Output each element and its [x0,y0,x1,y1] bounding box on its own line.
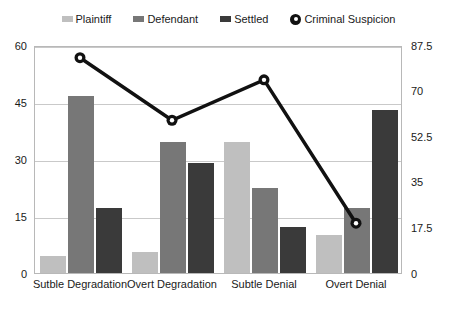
bar-plaintiff[interactable] [316,235,342,273]
chart-legend: Plaintiff Defendant Settled Criminal Sus… [0,8,457,30]
y-tick-label-left: 30 [15,155,27,166]
legend-label-defendant: Defendant [147,14,198,25]
y-tick-label-right: 87.5 [411,41,432,52]
x-category-label: Overt Denial [325,278,386,291]
legend-marker-circle-icon [290,14,301,25]
y-axis-right-labels: 017.53552.57087.5 [406,46,446,274]
y-tick-label-left: 0 [21,269,27,280]
legend-swatch-settled [220,16,231,22]
bar-defendant[interactable] [160,142,186,273]
y-tick-label-right: 70 [411,86,423,97]
y-tick-label-left: 15 [15,212,27,223]
y-tick-label-left: 45 [15,98,27,109]
y-tick-label-right: 35 [411,177,423,188]
chart-container: Plaintiff Defendant Settled Criminal Sus… [0,0,457,309]
legend-label-settled: Settled [234,14,268,25]
bar-defendant[interactable] [344,208,370,273]
bar-defendant[interactable] [252,188,278,274]
bar-settled[interactable] [188,163,214,273]
bar-group [311,47,403,273]
x-axis-category-labels: Sutble DegradationOvert DegradationSubtl… [34,278,402,298]
bar-plaintiff[interactable] [40,256,66,273]
bars-layer [35,47,401,273]
legend-item-settled[interactable]: Settled [220,14,268,25]
bar-plaintiff[interactable] [132,252,158,273]
y-tick-label-right: 52.5 [411,132,432,143]
bar-settled[interactable] [372,110,398,273]
legend-swatch-plaintiff [62,16,73,22]
bar-group [219,47,311,273]
bar-settled[interactable] [280,227,306,273]
bar-plaintiff[interactable] [224,142,250,273]
bar-group [35,47,127,273]
legend-label-criminal-suspicion: Criminal Suspicion [304,14,395,25]
bar-group [127,47,219,273]
legend-item-criminal-suspicion[interactable]: Criminal Suspicion [290,14,395,25]
legend-swatch-defendant [133,16,144,22]
x-category-label: Subtle Denial [231,278,296,291]
bar-settled[interactable] [96,208,122,273]
y-tick-label-left: 60 [15,41,27,52]
bar-defendant[interactable] [68,96,94,273]
y-tick-label-right: 0 [411,269,417,280]
x-category-label: Overt Degradation [127,278,217,291]
y-tick-label-right: 17.5 [411,223,432,234]
legend-item-plaintiff[interactable]: Plaintiff [62,14,112,25]
plot-area [34,46,402,274]
x-category-label: Sutble Degradation [33,278,127,291]
y-axis-left-labels: 015304560 [0,46,32,274]
legend-label-plaintiff: Plaintiff [76,14,112,25]
legend-item-defendant[interactable]: Defendant [133,14,198,25]
